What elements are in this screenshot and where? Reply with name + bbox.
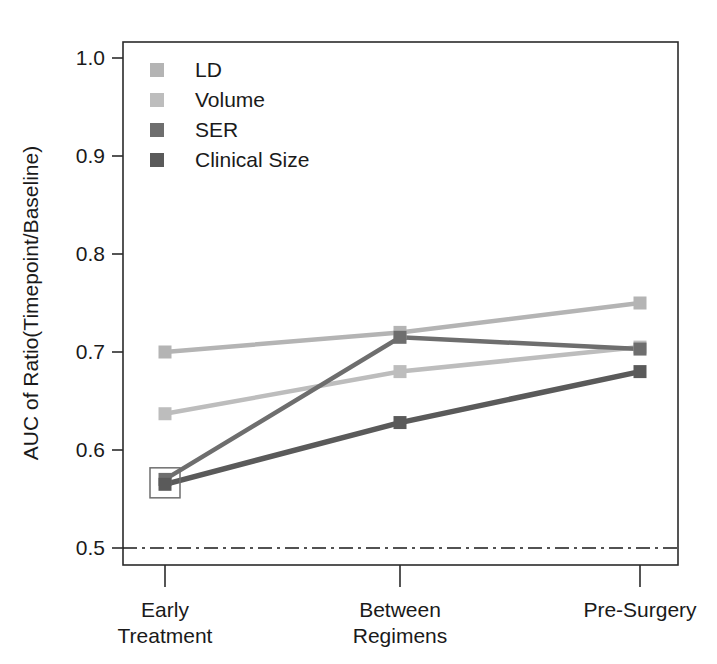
x-tick-label: Pre-Surgery bbox=[583, 598, 697, 621]
legend-label-volume: Volume bbox=[195, 88, 265, 111]
x-tick-label: Regimens bbox=[353, 624, 448, 647]
data-point-marker bbox=[394, 331, 407, 344]
data-point-marker bbox=[394, 416, 407, 429]
series-line-volume bbox=[165, 347, 640, 414]
y-tick-label: 0.8 bbox=[76, 242, 105, 265]
y-tick-label: 1.0 bbox=[76, 46, 105, 69]
auc-line-chart: 0.50.60.70.80.91.0 EarlyTreatmentBetween… bbox=[0, 0, 717, 664]
data-point-marker bbox=[634, 343, 647, 356]
legend-label-ld: LD bbox=[195, 58, 222, 81]
data-point-marker bbox=[394, 365, 407, 378]
y-tick-label: 0.7 bbox=[76, 340, 105, 363]
legend-swatch-ld bbox=[150, 63, 164, 77]
legend-swatch-volume bbox=[150, 93, 164, 107]
y-axis: 0.50.60.70.80.91.0 bbox=[76, 46, 123, 559]
y-tick-label: 0.6 bbox=[76, 438, 105, 461]
data-point-marker bbox=[159, 346, 172, 359]
chart-container: 0.50.60.70.80.91.0 EarlyTreatmentBetween… bbox=[0, 0, 717, 664]
legend-label-ser: SER bbox=[195, 118, 238, 141]
data-point-marker bbox=[159, 407, 172, 420]
x-tick-label: Between bbox=[359, 598, 441, 621]
legend-swatch-clinical-size bbox=[150, 153, 164, 167]
y-tick-label: 0.9 bbox=[76, 144, 105, 167]
legend: LDVolumeSERClinical Size bbox=[150, 58, 309, 171]
legend-swatch-ser bbox=[150, 123, 164, 137]
series-line-ser bbox=[165, 337, 640, 479]
data-point-marker bbox=[159, 478, 172, 491]
x-tick-label: Treatment bbox=[118, 624, 213, 647]
legend-label-clinical-size: Clinical Size bbox=[195, 148, 309, 171]
y-tick-label: 0.5 bbox=[76, 536, 105, 559]
data-point-marker bbox=[634, 365, 647, 378]
x-axis: EarlyTreatmentBetweenRegimensPre-Surgery bbox=[118, 565, 698, 647]
y-axis-title: AUC of Ratio(Timepoint/Baseline) bbox=[19, 146, 42, 460]
data-point-marker bbox=[634, 297, 647, 310]
x-tick-label: Early bbox=[141, 598, 189, 621]
series-layer bbox=[159, 297, 647, 491]
